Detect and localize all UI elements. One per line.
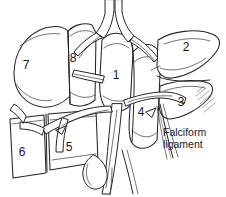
falciform-ligament-line-1: Falciform (163, 126, 206, 138)
segment-label-4: 4 (138, 105, 145, 119)
liver-diagram-svg: 1 2 3 4 5 6 7 8 Falciform ligament (0, 0, 226, 197)
segment-label-3: 3 (178, 95, 185, 109)
falciform-ligament-callout: Falciform ligament (163, 126, 206, 150)
segment-label-8: 8 (70, 51, 77, 65)
segment-label-2: 2 (183, 40, 190, 54)
segment-label-7: 7 (23, 58, 30, 72)
segment-label-6: 6 (19, 145, 26, 159)
liver-segments-figure: 1 2 3 4 5 6 7 8 Falciform ligament (0, 0, 226, 197)
segment-label-1: 1 (113, 68, 120, 82)
segment-label-5: 5 (66, 140, 73, 154)
falciform-ligament-line-2: ligament (163, 138, 203, 150)
